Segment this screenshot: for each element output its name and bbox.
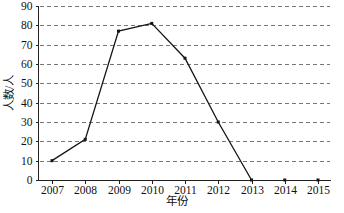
y-tick-label: 60: [21, 58, 33, 70]
x-tick-label: 2014: [274, 184, 297, 196]
x-tick-label: 2012: [207, 184, 230, 196]
y-tick-label: 30: [21, 116, 33, 128]
chart-canvas: 0102030405060708090 20072008200920102011…: [0, 0, 344, 213]
line-chart: 0102030405060708090 20072008200920102011…: [0, 0, 344, 213]
data-point-marker: [150, 22, 153, 25]
x-tick-label: 2013: [241, 184, 264, 196]
data-point-marker: [217, 121, 220, 124]
y-tick-label: 0: [27, 174, 33, 186]
data-point-marker: [250, 179, 253, 182]
x-tick-label: 2009: [108, 184, 131, 196]
y-tick-label: 10: [21, 155, 33, 167]
x-tick-label: 2015: [307, 184, 330, 196]
y-tick-label: 80: [21, 19, 33, 31]
x-tick-label: 2007: [41, 184, 64, 196]
data-point-marker: [117, 30, 120, 33]
y-axis-title: 人数/人: [2, 74, 15, 111]
y-tick-label: 70: [21, 39, 33, 51]
x-axis-title: 年份: [166, 194, 189, 207]
data-point-marker: [84, 138, 87, 141]
y-tick-label: 40: [21, 97, 33, 109]
data-point-marker: [283, 179, 286, 182]
x-tick-label: 2010: [141, 184, 164, 196]
data-point-marker: [51, 159, 54, 162]
data-point-marker: [184, 57, 187, 60]
y-tick-label: 50: [21, 77, 33, 89]
x-tick-label: 2008: [74, 184, 97, 196]
data-point-marker: [317, 179, 320, 182]
y-tick-label: 20: [21, 135, 33, 147]
y-tick-label: 90: [21, 0, 33, 12]
